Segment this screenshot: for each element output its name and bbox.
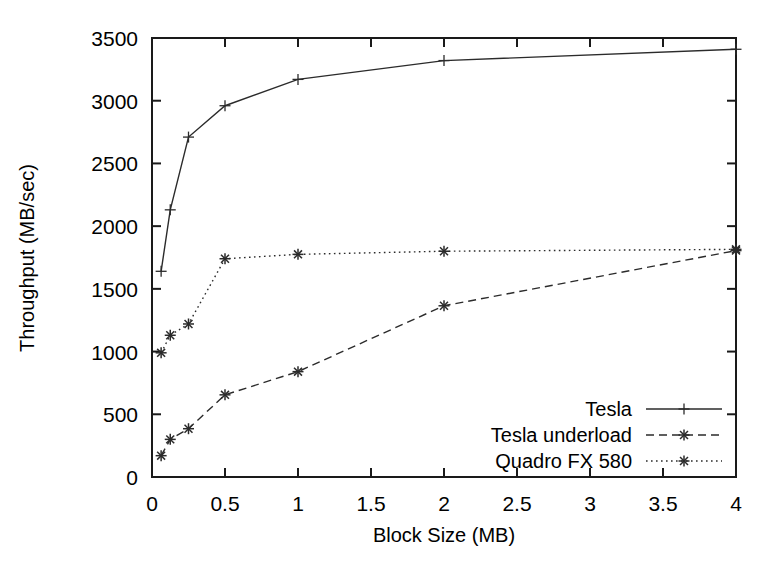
x-tick-label: 2.5 xyxy=(502,492,531,515)
y-tick-label: 2500 xyxy=(91,152,138,175)
x-tick-label: 0.5 xyxy=(210,492,239,515)
y-tick-label: 0 xyxy=(126,466,138,489)
x-tick-label: 2 xyxy=(438,492,450,515)
series-tesla-underload xyxy=(156,245,742,461)
x-axis-tick-labels: 00.511.522.533.54 xyxy=(146,492,742,515)
throughput-line-chart: 00.511.522.533.54 0500100015002000250030… xyxy=(0,0,763,580)
y-tick-label: 1000 xyxy=(91,341,138,364)
legend-label-quadro-fx-580: Quadro FX 580 xyxy=(495,450,632,472)
x-tick-label: 3 xyxy=(584,492,596,515)
chart-legend: TeslaTesla underloadQuadro FX 580 xyxy=(491,398,722,472)
chart-figure: 00.511.522.533.54 0500100015002000250030… xyxy=(0,0,763,580)
series-line xyxy=(161,249,736,352)
x-tick-label: 1.5 xyxy=(356,492,385,515)
x-tick-label: 4 xyxy=(730,492,742,515)
y-axis-tick-labels: 0500100015002000250030003500 xyxy=(91,27,138,489)
series-plot-group xyxy=(156,44,742,461)
series-line xyxy=(161,251,736,456)
y-tick-label: 2000 xyxy=(91,215,138,238)
y-tick-label: 500 xyxy=(103,403,138,426)
series-quadro-fx-580 xyxy=(156,244,742,358)
legend-label-tesla: Tesla xyxy=(585,398,633,420)
y-tick-label: 1500 xyxy=(91,278,138,301)
y-tick-label: 3000 xyxy=(91,90,138,113)
x-axis-title: Block Size (MB) xyxy=(373,524,515,546)
series-tesla xyxy=(156,44,742,277)
series-line xyxy=(161,49,736,271)
x-tick-label: 1 xyxy=(292,492,304,515)
y-tick-label: 3500 xyxy=(91,27,138,50)
x-tick-label: 3.5 xyxy=(648,492,677,515)
x-tick-label: 0 xyxy=(146,492,158,515)
y-axis-title: Throughput (MB/sec) xyxy=(16,164,38,352)
legend-label-tesla-underload: Tesla underload xyxy=(491,424,632,446)
